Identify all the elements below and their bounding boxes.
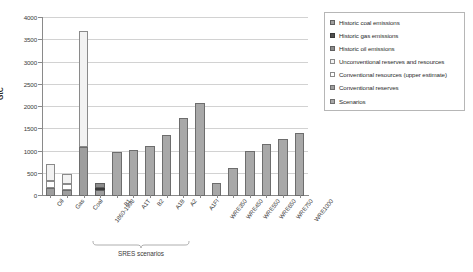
legend-swatch-icon (330, 20, 335, 25)
legend-label: Scenarios (339, 98, 366, 105)
bar-segment (79, 147, 89, 196)
x-tick-mark (133, 195, 134, 198)
bar-column[interactable] (212, 183, 222, 196)
y-tick-label: 2500 (24, 80, 37, 87)
bar-column[interactable] (162, 135, 172, 196)
bar-segment (46, 181, 56, 188)
x-tick-mark (117, 195, 118, 198)
legend-label: Historic coal emissions (339, 19, 400, 26)
bar-segment (46, 164, 56, 182)
x-tick-label: A2 (189, 198, 198, 207)
x-tick-label: Coal (91, 198, 103, 211)
x-tick-mark (67, 195, 68, 198)
x-tick-label: Gas (74, 198, 85, 210)
legend-item[interactable]: Historic coal emissions (330, 18, 460, 26)
bar-segment (245, 151, 255, 196)
legend-item[interactable]: Unconventional reserves and resources (330, 58, 460, 66)
legend-item[interactable]: Conventional resources (upper estimate) (330, 71, 460, 79)
y-axis-ticks: 05001000150020002500300035004000 (0, 17, 42, 196)
x-tick-mark (283, 195, 284, 198)
bar-column[interactable] (295, 133, 305, 196)
x-tick-label: WRE1000 (313, 198, 334, 223)
bar-segment (228, 168, 238, 196)
x-tick-mark (167, 195, 168, 198)
y-tick-label: 2000 (24, 103, 37, 110)
x-tick-mark (50, 195, 51, 198)
y-tick-label: 0 (34, 192, 37, 199)
y-tick-label: 4000 (24, 14, 37, 21)
y-tick-label: 3500 (24, 36, 37, 43)
bar-column[interactable] (245, 151, 255, 196)
chart-root: GtC 05001000150020002500300035004000 Oil… (0, 0, 473, 272)
x-tick-label: A1T (141, 198, 152, 210)
y-tick-label: 1500 (24, 125, 37, 132)
legend-label: Historic oil emissions (339, 45, 395, 52)
x-tick-mark (250, 195, 251, 198)
bar-column[interactable] (145, 146, 155, 196)
x-tick-label: A1FI (208, 198, 220, 211)
legend-swatch-icon (330, 46, 335, 51)
bar-segment (278, 139, 288, 196)
x-tick-mark (300, 195, 301, 198)
legend-label: Historic gas emissions (339, 32, 398, 39)
bar-column[interactable] (129, 150, 139, 196)
y-tick-label: 3000 (24, 58, 37, 65)
x-tick-mark (100, 195, 101, 198)
bar-segment (195, 103, 205, 196)
bar-column[interactable] (195, 103, 205, 196)
bar-segment (212, 183, 222, 196)
bar-column[interactable] (179, 118, 189, 196)
x-tick-mark (183, 195, 184, 198)
x-tick-label: Oil (56, 198, 65, 207)
legend-item[interactable]: Historic oil emissions (330, 44, 460, 52)
bar-column[interactable] (278, 139, 288, 196)
x-tick-mark (266, 195, 267, 198)
legend-label: Conventional reserves (339, 84, 398, 91)
x-tick-mark (200, 195, 201, 198)
sres-bracket-label: SRES scenarios (92, 250, 190, 257)
bar-column[interactable] (262, 144, 272, 197)
legend-item[interactable]: Conventional reserves (330, 84, 460, 92)
legend-swatch-icon (330, 33, 335, 38)
legend-swatch-icon (330, 59, 335, 64)
bar-segment (179, 118, 189, 196)
bar-column[interactable] (62, 174, 72, 196)
bar-segment (295, 133, 305, 196)
legend-item[interactable]: Scenarios (330, 97, 460, 105)
bar-column[interactable] (228, 168, 238, 196)
bar-segment (79, 31, 89, 147)
chart-legend: Historic coal emissionsHistoric gas emis… (324, 12, 465, 111)
legend-swatch-icon (330, 85, 335, 90)
x-tick-mark (217, 195, 218, 198)
x-tick-label: B2 (156, 198, 165, 207)
bar-column[interactable] (112, 152, 122, 196)
bar-segment (112, 152, 122, 196)
bar-series-group (42, 17, 309, 196)
legend-swatch-icon (330, 99, 335, 104)
bar-segment (162, 135, 172, 196)
legend-label: Conventional resources (upper estimate) (339, 71, 447, 78)
bar-column[interactable] (46, 164, 56, 196)
x-axis-labels: OilGasCoal1860-1998B1A1TB2A1BA2A1FIWRE35… (42, 196, 309, 242)
y-tick-label: 1000 (24, 147, 37, 154)
bar-segment (262, 144, 272, 197)
x-tick-mark (84, 195, 85, 198)
legend-swatch-icon (330, 72, 335, 77)
bar-segment (62, 174, 72, 184)
y-tick-label: 500 (27, 169, 37, 176)
x-tick-mark (233, 195, 234, 198)
x-tick-label: A1B (174, 198, 186, 210)
legend-item[interactable]: Historic gas emissions (330, 31, 460, 39)
sres-bracket-icon (92, 240, 190, 249)
bar-segment (129, 150, 139, 196)
legend-label: Unconventional reserves and resources (339, 58, 444, 65)
x-tick-label: WRE750 (295, 198, 314, 220)
x-tick-mark (150, 195, 151, 198)
bar-segment (145, 146, 155, 196)
bar-column[interactable] (79, 31, 89, 196)
